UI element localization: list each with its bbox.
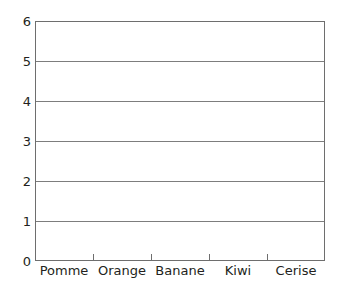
x-tick-mark-4: [267, 254, 268, 261]
gridline-4: [36, 101, 324, 102]
x-tick-label-orange: Orange: [93, 263, 151, 278]
y-tick-label-3: 3: [9, 135, 31, 148]
y-tick-label-4: 4: [9, 95, 31, 108]
x-tick-mark-2: [151, 254, 152, 261]
gridline-1: [36, 221, 324, 222]
y-tick-label-6: 6: [9, 15, 31, 28]
x-tick-label-pomme: Pomme: [35, 263, 93, 278]
plot-area: [35, 21, 325, 261]
y-tick-label-0: 0: [9, 255, 31, 268]
y-axis: 6 5 4 3 2 1 0: [0, 0, 31, 293]
x-tick-mark-1: [93, 254, 94, 261]
y-tick-label-2: 2: [9, 175, 31, 188]
y-tick-label-5: 5: [9, 55, 31, 68]
gridline-5: [36, 61, 324, 62]
y-tick-label-1: 1: [9, 215, 31, 228]
x-tick-label-banane: Banane: [151, 263, 209, 278]
x-tick-mark-3: [209, 254, 210, 261]
bar-chart: 6 5 4 3 2 1 0 Pomme Orange Banane Kiwi C…: [0, 0, 344, 293]
x-tick-label-cerise: Cerise: [267, 263, 325, 278]
x-tick-label-kiwi: Kiwi: [209, 263, 267, 278]
gridline-2: [36, 181, 324, 182]
gridline-3: [36, 141, 324, 142]
